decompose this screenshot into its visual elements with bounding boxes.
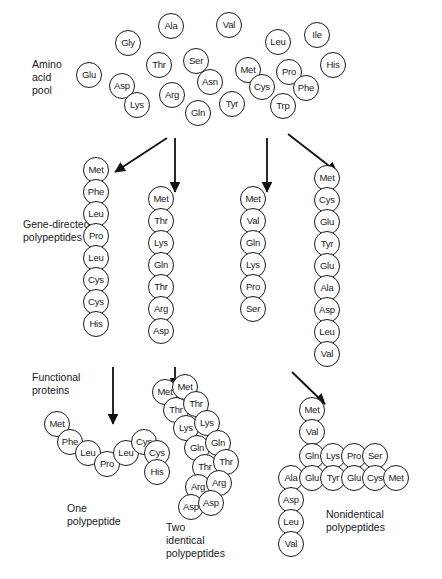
pool-residue-gln: Gln [185,100,211,126]
pool-residue-trp: Trp [270,93,296,119]
protein-residue-val: Val [278,531,304,557]
arrow-pool-to-chain1 [115,138,167,172]
protein-residue-asp: Asp [198,490,224,516]
protein-residue-met: Met [383,465,409,491]
pool-residue-arg: Arg [159,82,185,108]
chain-residue-ser: Ser [240,296,266,322]
pool-residue-phe: Phe [293,75,319,101]
protein-residue-val: Val [299,419,325,445]
two-identical-polypeptides-label: Two identical polypeptides [166,521,225,560]
pool-residue-leu: Leu [265,29,291,55]
amino-acid-pool-diagram: Amino acid pool Gene-directed polypeptid… [0,0,442,579]
pool-residue-his: His [320,52,346,78]
pool-residue-cys: Cys [249,74,275,100]
chain-residue-asp: Asp [148,318,174,344]
functional-proteins-label: Functional proteins [32,371,80,397]
chain-residue-his: His [83,311,109,337]
pool-residue-glu: Glu [76,62,102,88]
pool-residue-thr: Thr [146,52,172,78]
chain-residue-val: Val [314,341,340,367]
pool-residue-ile: Ile [304,22,330,48]
amino-acid-pool-label: Amino acid pool [32,58,62,97]
one-polypeptide-label: One polypeptide [67,502,121,528]
pool-residue-val: Val [216,12,242,38]
pool-residue-gly: Gly [115,30,141,56]
gene-directed-polypeptides-label: Gene-directed polypeptides [23,218,90,244]
protein-residue-his: His [144,459,170,485]
pool-residue-ala: Ala [158,13,184,39]
nonidentical-polypeptides-label: Nonidentical polypeptides [326,508,385,534]
pool-residue-lys: Lys [124,92,150,118]
pool-residue-asn: Asn [197,69,223,95]
pool-residue-tyr: Tyr [219,91,245,117]
